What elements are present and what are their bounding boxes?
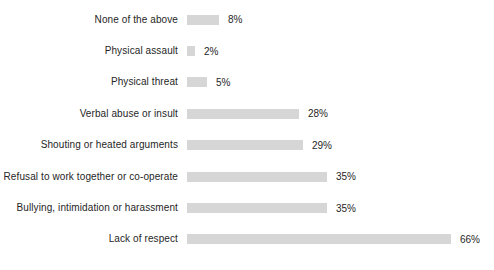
value-label: 66% bbox=[460, 234, 480, 245]
category-label: Lack of respect bbox=[0, 233, 187, 245]
bar-area: 35% bbox=[187, 171, 494, 182]
bar bbox=[187, 15, 219, 25]
bar-area: 29% bbox=[187, 140, 494, 151]
bar-area: 5% bbox=[187, 77, 494, 88]
bar bbox=[187, 172, 327, 182]
chart-row: Lack of respect 66% bbox=[0, 224, 494, 255]
chart-row: Verbal abuse or insult 28% bbox=[0, 98, 494, 129]
bar-area: 35% bbox=[187, 203, 494, 214]
bar-area: 2% bbox=[187, 46, 494, 57]
category-label: None of the above bbox=[0, 14, 187, 26]
bar bbox=[187, 46, 195, 56]
value-label: 5% bbox=[216, 77, 230, 88]
bar bbox=[187, 234, 451, 244]
category-label: Refusal to work together or co-operate bbox=[0, 171, 187, 183]
bar-chart: None of the above 8% Physical assault 2%… bbox=[0, 0, 494, 270]
bar bbox=[187, 203, 327, 213]
chart-row: Refusal to work together or co-operate 3… bbox=[0, 161, 494, 192]
chart-row: None of the above 8% bbox=[0, 4, 494, 35]
bar-area: 28% bbox=[187, 108, 494, 119]
bar bbox=[187, 140, 303, 150]
bar bbox=[187, 77, 207, 87]
value-label: 2% bbox=[204, 46, 218, 57]
bar-area: 66% bbox=[187, 234, 494, 245]
category-label: Physical threat bbox=[0, 76, 187, 88]
category-label: Shouting or heated arguments bbox=[0, 139, 187, 151]
value-label: 35% bbox=[336, 171, 356, 182]
chart-row: Physical assault 2% bbox=[0, 35, 494, 66]
chart-row: Physical threat 5% bbox=[0, 67, 494, 98]
bar bbox=[187, 109, 299, 119]
category-label: Verbal abuse or insult bbox=[0, 108, 187, 120]
category-label: Bullying, intimidation or harassment bbox=[0, 202, 187, 214]
value-label: 28% bbox=[308, 108, 328, 119]
bar-area: 8% bbox=[187, 14, 494, 25]
category-label: Physical assault bbox=[0, 45, 187, 57]
chart-row: Bullying, intimidation or harassment 35% bbox=[0, 192, 494, 223]
value-label: 29% bbox=[312, 140, 332, 151]
value-label: 35% bbox=[336, 203, 356, 214]
value-label: 8% bbox=[228, 14, 242, 25]
chart-row: Shouting or heated arguments 29% bbox=[0, 130, 494, 161]
